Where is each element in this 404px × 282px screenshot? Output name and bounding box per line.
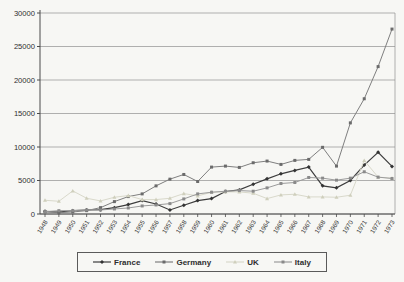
germany-series-marker-icon: [155, 258, 173, 266]
x-axis-tick-label: 1958: [174, 218, 188, 234]
legend-label-uk: UK: [247, 258, 259, 267]
y-axis-tick-label: 10000: [14, 143, 35, 152]
x-axis-tick-label: 1952: [91, 218, 105, 234]
x-axis-tick-label: 1972: [368, 218, 382, 234]
line-chart: 0500010000150002000025000300001948194919…: [0, 0, 404, 282]
x-axis-tick-label: 1961: [216, 218, 230, 234]
x-axis-tick-label: 1965: [271, 218, 285, 234]
x-axis-tick-label: 1969: [327, 218, 341, 234]
france-series-marker-icon: [93, 258, 111, 266]
y-axis-tick-label: 30000: [14, 9, 35, 18]
x-axis-tick-label: 1948: [35, 218, 49, 234]
x-axis-tick-label: 1951: [77, 218, 91, 234]
uk-series-marker-icon: [226, 258, 244, 266]
x-axis-tick-label: 1953: [105, 218, 119, 234]
gridlines: [40, 13, 395, 214]
x-axis-tick-label: 1954: [119, 218, 133, 234]
legend-label-germany: Germany: [176, 258, 211, 267]
legend-item-italy: Italy: [274, 258, 311, 267]
x-axis-tick-label: 1949: [49, 218, 63, 234]
series-line-italy: [45, 172, 392, 212]
x-axis-tick-label: 1960: [202, 218, 216, 234]
x-axis-tick-label: 1968: [313, 218, 327, 234]
x-axis-tick-label: 1967: [299, 218, 313, 234]
legend-label-italy: Italy: [295, 258, 311, 267]
x-axis-tick-label: 1970: [341, 218, 355, 234]
x-axis-tick-label: 1950: [63, 218, 77, 234]
y-axis-tick-label: 15000: [14, 109, 35, 118]
x-axis-tick-label: 1957: [160, 218, 174, 234]
x-axis-tick-label: 1966: [285, 218, 299, 234]
x-axis-tick-labels: 1948194919501951195219531954195519561957…: [35, 218, 396, 234]
y-axis-tick-label: 20000: [14, 76, 35, 85]
chart-svg: 0500010000150002000025000300001948194919…: [0, 0, 404, 282]
x-axis-tick-label: 1973: [382, 218, 396, 234]
series-markers-germany: [44, 28, 394, 215]
series-italy: [44, 170, 394, 213]
legend: FranceGermanyUKItaly: [77, 252, 327, 272]
series-line-france: [45, 152, 392, 212]
legend-item-germany: Germany: [155, 258, 211, 267]
y-axis-tick-label: 5000: [18, 176, 35, 185]
x-axis-tick-label: 1956: [146, 218, 160, 234]
x-axis-tick-label: 1971: [355, 218, 369, 234]
y-axis-tick-label: 25000: [14, 42, 35, 51]
y-axis-tick-labels: 050001000015000200002500030000: [14, 9, 35, 219]
legend-label-france: France: [114, 258, 140, 267]
y-axis-tick-label: 0: [31, 210, 35, 219]
legend-item-france: France: [93, 258, 140, 267]
series-france: [43, 150, 394, 214]
series-line-germany: [45, 29, 392, 213]
x-axis-tick-label: 1963: [244, 218, 258, 234]
series-markers-france: [43, 150, 394, 214]
x-axis-tick-label: 1964: [257, 218, 271, 234]
x-axis-tick-label: 1959: [188, 218, 202, 234]
legend-item-uk: UK: [226, 258, 259, 267]
italy-series-marker-icon: [274, 258, 292, 266]
series-germany: [44, 28, 394, 215]
x-axis-tick-label: 1955: [133, 218, 147, 234]
x-axis-tick-label: 1962: [230, 218, 244, 234]
axes: [40, 10, 395, 214]
